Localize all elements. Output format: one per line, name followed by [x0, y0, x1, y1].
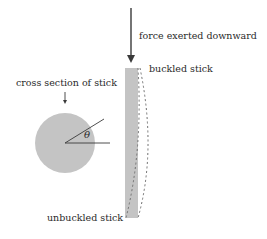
- unbuckled-stick-shape: [125, 68, 138, 218]
- force-label: force exerted downward: [139, 31, 257, 41]
- force-arrow-icon: [127, 8, 135, 63]
- buckled-stick-label: buckled stick: [149, 64, 213, 74]
- stick-buckling-diagram: force exerted downward buckled stick cro…: [0, 0, 267, 239]
- unbuckled-stick-label: unbuckled stick: [47, 213, 123, 223]
- cross-section-label: cross section of stick: [16, 78, 117, 88]
- pointer-arrow-icon: [63, 92, 67, 104]
- angle-theta-label: θ: [84, 130, 90, 140]
